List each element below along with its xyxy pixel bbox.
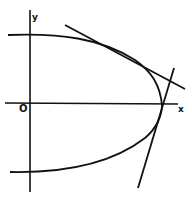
- x-axis: [5, 103, 178, 104]
- curve-upper-branch: [8, 35, 162, 105]
- curve-lower-branch: [10, 105, 162, 172]
- origin-label: O: [19, 103, 28, 114]
- tangent-line-upper: [65, 25, 185, 89]
- x-axis-label: x: [178, 104, 184, 114]
- tangent-line-lower: [138, 68, 174, 188]
- diagram-canvas: y O x: [0, 0, 192, 200]
- y-axis-label: y: [32, 12, 38, 22]
